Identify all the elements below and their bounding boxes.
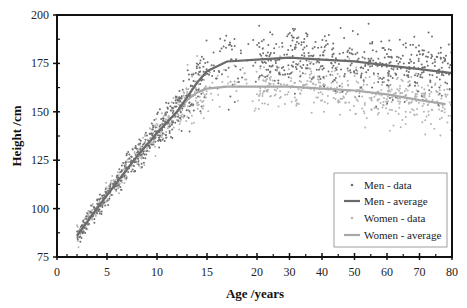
- legend-men-average: Men - average: [364, 195, 428, 207]
- legend-men-data: Men - data: [364, 179, 412, 191]
- y-axis: 75100125150175200: [31, 8, 60, 264]
- x-tick-label: 60: [381, 265, 393, 279]
- legend-women-data: Women - data: [364, 212, 426, 224]
- x-tick-label: 30: [284, 265, 296, 279]
- women-data-marker-icon: [351, 217, 354, 220]
- legend-women-average: Women - average: [364, 229, 441, 241]
- y-tick-label: 125: [31, 153, 49, 167]
- x-tick-label: 0: [54, 265, 60, 279]
- y-tick-label: 100: [31, 202, 49, 216]
- x-tick-label: 40: [316, 265, 328, 279]
- y-tick-label: 75: [37, 250, 49, 264]
- men-data-marker-icon: [351, 184, 354, 187]
- x-tick-label: 80: [446, 265, 458, 279]
- height-vs-age-chart: 75100125150175200 05101520304050607080 A…: [0, 0, 467, 308]
- y-tick-label: 200: [31, 8, 49, 22]
- x-tick-label: 50: [349, 265, 361, 279]
- x-tick-label: 15: [201, 265, 213, 279]
- x-tick-label: 10: [151, 265, 163, 279]
- legend: Men - data Men - average Women - data Wo…: [334, 173, 447, 247]
- y-tick-label: 175: [31, 56, 49, 70]
- y-axis-title: Height /cm: [9, 105, 24, 166]
- x-axis-title: Age /years: [226, 286, 284, 301]
- x-tick-label: 20: [251, 265, 263, 279]
- x-tick-label: 70: [414, 265, 426, 279]
- x-tick-label: 5: [104, 265, 110, 279]
- y-tick-label: 150: [31, 105, 49, 119]
